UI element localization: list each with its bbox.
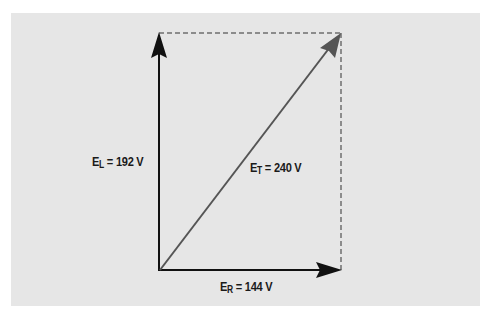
el-vector-arrow bbox=[151, 32, 167, 271]
er-label: ER = 144 V bbox=[220, 279, 272, 295]
el-label: EL = 192 V bbox=[92, 154, 143, 170]
et-vector-arrow bbox=[160, 33, 341, 270]
phasor-diagram bbox=[0, 0, 493, 313]
er-vector-arrow bbox=[158, 262, 342, 278]
et-label: ET = 240 V bbox=[250, 160, 301, 176]
